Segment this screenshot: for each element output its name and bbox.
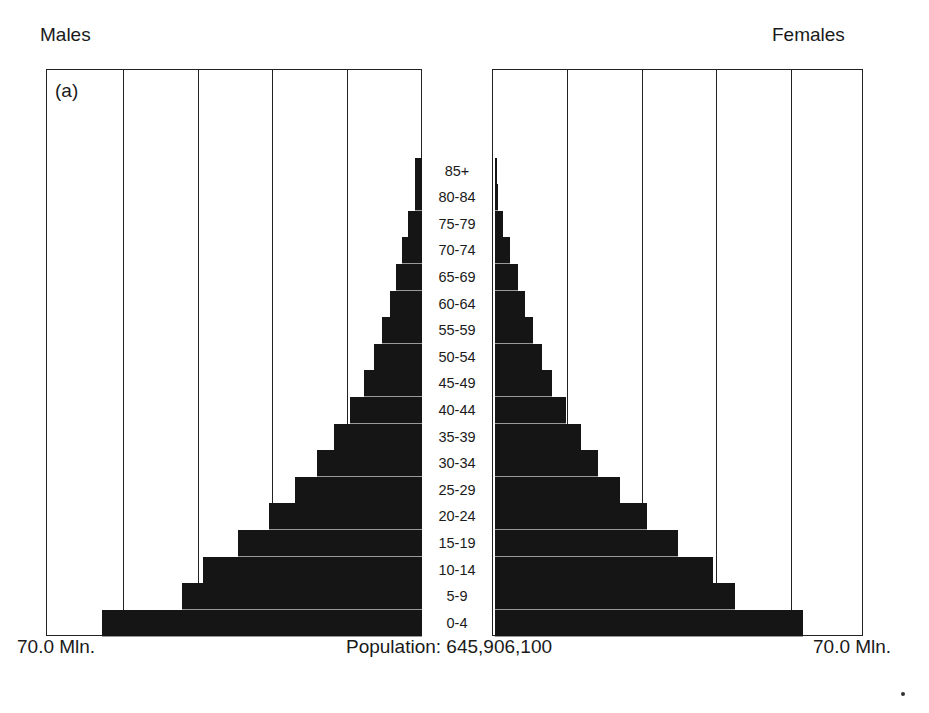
male-bar [269,503,422,530]
axis-max-right: 70.0 Mln. [813,636,891,658]
female-bar [495,291,525,318]
females-title: Females [772,24,845,46]
male-bar [415,158,422,185]
female-bar [495,237,510,264]
age-group-label: 0-4 [422,610,492,636]
gridline [198,70,199,635]
age-group-label: 35-39 [422,424,492,450]
male-bar [317,450,422,477]
age-group-label: 55-59 [422,317,492,343]
age-group-label: 10-14 [422,557,492,583]
male-bar [390,291,422,318]
female-bar [495,184,498,211]
age-group-label: 30-34 [422,450,492,476]
total-population: Population: 645,906,100 [346,636,552,658]
gridline [791,70,792,635]
age-group-label: 25-29 [422,477,492,503]
age-group-label: 20-24 [422,503,492,529]
female-bar [495,158,497,185]
age-group-label: 85+ [422,158,492,184]
male-bar [374,344,422,371]
male-bar [415,184,422,211]
female-bar [495,557,713,584]
male-bar [408,211,422,238]
female-bar [495,317,533,344]
female-bar [495,530,678,557]
male-bar [382,317,422,344]
age-group-label: 15-19 [422,530,492,556]
male-bar [182,583,422,610]
female-bar [495,450,598,477]
age-group-label: 45-49 [422,370,492,396]
axis-max-left: 70.0 Mln. [17,636,95,658]
male-bar [238,530,422,557]
age-group-label: 70-74 [422,237,492,263]
male-bar [402,237,422,264]
male-bar [334,424,422,451]
female-bar [495,424,581,451]
panel-tag: (a) [55,80,78,102]
age-group-label: 65-69 [422,264,492,290]
male-bar [350,397,422,424]
male-bar [295,477,422,504]
female-bar [495,610,803,637]
male-bar [102,610,422,637]
female-bar [495,397,566,424]
gridline [123,70,124,635]
female-bar [495,503,647,530]
female-bar [495,583,735,610]
age-group-label: 60-64 [422,291,492,317]
age-group-label: 80-84 [422,184,492,210]
female-bar [495,264,518,291]
female-bar [495,370,552,397]
age-group-label: 40-44 [422,397,492,423]
gridline [716,70,717,635]
males-title: Males [40,24,91,46]
female-bar [495,211,503,238]
age-group-label: 50-54 [422,344,492,370]
female-bar [495,344,542,371]
male-bar [396,264,422,291]
stray-dot [901,692,905,696]
age-group-label: 5-9 [422,583,492,609]
female-bar [495,477,620,504]
male-bar [364,370,422,397]
male-bar [203,557,422,584]
age-group-label: 75-79 [422,211,492,237]
